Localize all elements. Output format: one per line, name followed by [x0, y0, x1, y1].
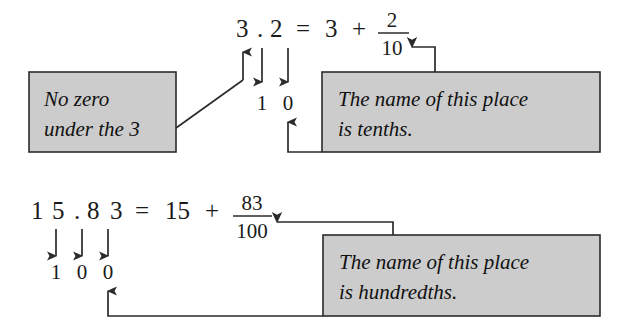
row2-whole-part: 15 [165, 197, 190, 224]
callout-tenths: The name of this place is tenths. [322, 72, 600, 152]
row2-fraction: 83 100 [233, 191, 272, 243]
row1-fraction-numerator: 2 [387, 8, 398, 32]
decimal-place-value-diagram: 3 . 2 = 3 + 2 10 1 0 [0, 0, 631, 321]
row2-fraction-denominator: 100 [236, 219, 268, 243]
row1-decimal-point: . [257, 15, 263, 42]
callout-no-zero-line1: No zero [43, 87, 109, 111]
row2-place-digit-0-tenths: 0 [77, 260, 88, 284]
row2-digit-1: 1 [31, 197, 44, 224]
row1-equals-sign: = [296, 15, 310, 42]
callout-tenths-line2: is tenths. [338, 117, 413, 141]
row1-digit-3: 3 [236, 15, 249, 42]
row2-place-digit-0-hundredths: 0 [103, 260, 114, 284]
row-tenths: 3 . 2 = 3 + 2 10 1 0 [29, 8, 600, 152]
row1-fraction-denominator: 10 [382, 36, 403, 60]
row2-fraction-numerator: 83 [242, 191, 263, 215]
callout-hundredths-line1: The name of this place [339, 250, 529, 274]
callout-tenths-line1: The name of this place [338, 87, 528, 111]
callout-no-zero-line2: under the 3 [44, 117, 140, 141]
row2-digit-3: 3 [110, 197, 123, 224]
row1-digit-2: 2 [270, 15, 283, 42]
row2-decimal-point: . [74, 197, 80, 224]
row2-connector-box-to-denominator [277, 222, 393, 235]
row-hundredths: 1 5 . 8 3 = 15 + 83 100 1 0 0 [31, 191, 600, 316]
row1-whole-part: 3 [325, 15, 338, 42]
row1-place-digit-0: 0 [283, 91, 294, 115]
callout-hundredths: The name of this place is hundredths. [323, 235, 600, 316]
row2-plus-sign: + [205, 197, 219, 224]
row2-place-digit-1: 1 [51, 260, 62, 284]
row1-fraction: 2 10 [378, 8, 409, 60]
row1-plus-sign: + [352, 15, 366, 42]
row2-digit-8: 8 [87, 197, 100, 224]
diagram-canvas: 3 . 2 = 3 + 2 10 1 0 [0, 0, 631, 321]
row1-connector-box-to-denominator [412, 47, 435, 72]
callout-hundredths-line2: is hundredths. [339, 280, 457, 304]
row1-leader-diagonal [176, 80, 243, 128]
row1-connector-box-to-place-zero [288, 122, 322, 152]
callout-no-zero-under-the-3: No zero under the 3 [29, 72, 176, 152]
row1-place-digit-1: 1 [257, 91, 268, 115]
row2-equals-sign: = [135, 197, 149, 224]
row2-connector-box-to-place-zero [108, 291, 323, 316]
row2-digit-5: 5 [52, 197, 65, 224]
